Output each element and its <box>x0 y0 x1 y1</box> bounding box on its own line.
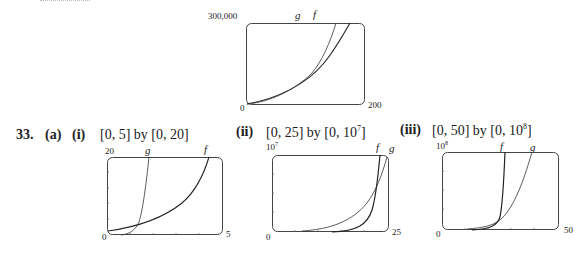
ii-xmax-label: 25 <box>392 227 401 237</box>
graph-ii <box>272 155 390 233</box>
i-origin-label: 0 <box>102 232 107 242</box>
iii-ymax-label: 108 <box>436 140 448 151</box>
graph-i <box>107 157 224 236</box>
i-curve-f <box>108 157 209 231</box>
caption-ii: [0, 25] by [0, 107] <box>266 124 366 141</box>
problem-number: 33. <box>16 127 34 143</box>
caption-iii: [0, 50] by [0, 108] <box>432 122 532 139</box>
top-graph <box>246 23 366 106</box>
i-g-label: g <box>145 144 151 156</box>
i-xmax-label: 5 <box>226 229 231 239</box>
iii-f-label: f <box>500 140 503 152</box>
cropped-text-fragment <box>40 0 90 4</box>
i-curve-g <box>121 157 149 235</box>
caption-ii-num: (ii) <box>236 124 253 140</box>
i-ymax-label: 20 <box>105 146 114 156</box>
top-ymax-label: 300,000 <box>208 11 237 21</box>
top-curve-g <box>247 23 336 104</box>
ii-origin-label: 0 <box>266 232 271 242</box>
top-f-label: f <box>313 8 316 20</box>
part-label: (a) <box>45 127 61 143</box>
caption-i: [0, 5] by [0, 20] <box>100 127 189 143</box>
iii-xmax-label: 50 <box>564 225 573 235</box>
iii-curve-f <box>472 152 505 230</box>
iii-origin-label: 0 <box>436 229 441 239</box>
top-xmax-label: 200 <box>368 100 382 110</box>
ii-g-label: g <box>389 142 395 154</box>
ii-curve-g <box>302 157 387 231</box>
top-origin-label: 0 <box>240 103 245 113</box>
caption-iii-num: (iii) <box>400 122 421 138</box>
i-f-label: f <box>204 143 207 155</box>
top-g-label: g <box>295 9 301 21</box>
graph-iii <box>442 152 560 231</box>
caption-i-num: (i) <box>72 127 85 143</box>
ii-ymax-label: 107 <box>266 141 278 152</box>
top-curve-f <box>247 23 350 104</box>
ii-f-label: f <box>376 141 379 153</box>
